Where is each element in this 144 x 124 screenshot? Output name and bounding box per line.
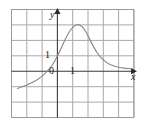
- y-axis-label: y: [50, 10, 54, 20]
- x-axis-label: x: [131, 72, 135, 82]
- graph-figure: y x 1 0 1: [0, 0, 144, 124]
- origin-label: 0: [49, 66, 54, 76]
- plot-canvas: [0, 0, 144, 124]
- x-axis-tick-label-1: 1: [70, 66, 75, 76]
- grid-vertical-lines: [12, 10, 134, 118]
- y-axis-tick-label-1: 1: [45, 50, 50, 60]
- curve-path: [18, 25, 133, 89]
